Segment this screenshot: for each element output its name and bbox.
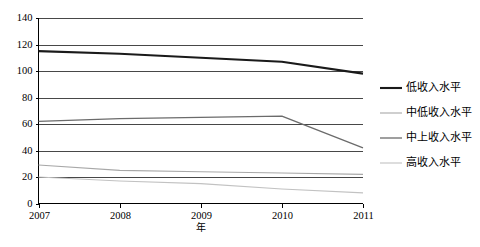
y-tick-label-60: 60 bbox=[22, 118, 33, 129]
x-tick-label-2009: 2009 bbox=[191, 210, 212, 221]
y-tick-label-20: 20 bbox=[22, 171, 33, 182]
y-tick-label-120: 120 bbox=[17, 39, 33, 50]
legend-label-3: 高收入水平 bbox=[406, 155, 461, 168]
y-tick-label-80: 80 bbox=[22, 92, 33, 103]
legend-label-0: 低收入水平 bbox=[406, 80, 461, 93]
x-tick-label-2008: 2008 bbox=[110, 210, 131, 221]
y-tick-label-0: 0 bbox=[27, 198, 32, 209]
x-axis-title: 年 bbox=[196, 221, 206, 233]
y-tick-label-40: 40 bbox=[22, 145, 33, 156]
line-chart: 020406080100120140 20072008200920102011 … bbox=[0, 0, 480, 247]
chart-canvas: 020406080100120140 20072008200920102011 … bbox=[0, 0, 480, 247]
x-tick-label-2007: 2007 bbox=[29, 210, 50, 221]
legend-label-2: 中上收入水平 bbox=[406, 130, 472, 143]
chart-background bbox=[0, 0, 480, 247]
x-tick-label-2011: 2011 bbox=[353, 210, 374, 221]
legend-label-1: 中低收入水平 bbox=[406, 105, 472, 118]
y-tick-label-140: 140 bbox=[17, 12, 33, 23]
y-tick-label-100: 100 bbox=[17, 65, 33, 76]
x-tick-label-2010: 2010 bbox=[272, 210, 293, 221]
